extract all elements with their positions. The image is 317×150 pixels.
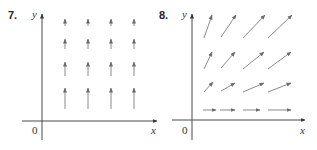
vector-arrow-icon [243,15,265,38]
vector-arrow-icon [204,82,213,92]
vector-field-figure: 7. y 0 x 8. y 0 x [0,0,317,150]
vector-arrow-icon [204,15,212,38]
origin-label: 0 [182,124,188,136]
vector-arrow-icon [268,83,291,92]
vector-arrows [65,19,134,109]
vector-arrows [203,15,292,110]
panel-8: 8. y 0 x [159,8,305,140]
x-axis-label: x [150,124,156,136]
x-axis-label: x [299,124,305,136]
vector-arrow-icon [268,15,292,38]
vector-arrow-icon [221,83,235,91]
vector-arrow-icon [243,52,264,69]
origin-label: 0 [32,124,38,136]
vector-arrow-icon [221,52,235,68]
panel-7: 7. y 0 x [8,8,157,140]
vector-arrow-icon [204,52,212,69]
y-axis-label: y [31,8,37,20]
vector-arrow-icon [268,52,291,69]
axes [172,14,305,140]
panel-number-label: 7. [8,9,17,21]
panel-number-label: 8. [159,9,168,21]
vector-arrow-icon [243,83,264,92]
y-axis-label: y [181,8,187,20]
axes [22,14,157,140]
vector-arrow-icon [221,15,236,37]
